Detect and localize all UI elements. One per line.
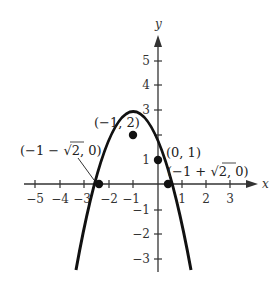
leader-line: [78, 158, 94, 180]
x-tick-label: 2: [202, 192, 210, 206]
x-tick-label: −4: [51, 192, 69, 206]
parabola-chart: −5 −4 −3 −2 −1 1 2 3 5 4 3 1 −1 −2 −3 x …: [0, 0, 278, 288]
x-tick-label: 3: [226, 192, 234, 206]
y-tick-label: −1: [132, 203, 150, 217]
y-tick-label: 4: [142, 78, 150, 92]
y-tick-label: 5: [142, 54, 150, 68]
svg-text:(−1 − √2, 0): (−1 − √2, 0): [20, 143, 102, 158]
vertex-point: [129, 131, 137, 139]
root-left-point: [95, 180, 103, 188]
y-tick-label: −3: [132, 252, 150, 266]
y-tick-label: 1: [142, 153, 150, 167]
vertex-label: (−1, 2): [94, 115, 140, 130]
x-axis-label: x: [262, 177, 269, 191]
y-intercept-point: [154, 156, 162, 164]
root-right-point: [164, 180, 172, 188]
x-tick-label: −2: [100, 192, 118, 206]
x-tick-label: 1: [178, 192, 186, 206]
y-axis-arrow-icon: [154, 35, 162, 47]
y-axis-label: y: [154, 17, 162, 31]
y-tick-label: −2: [132, 227, 150, 241]
root-right-label: (−1 + √2, 0): [167, 163, 249, 179]
y-intercept-label: (0, 1): [166, 145, 201, 160]
svg-text:(−1 + √2, 0): (−1 + √2, 0): [167, 164, 249, 179]
x-tick-label: −5: [26, 192, 44, 206]
root-left-label: (−1 − √2, 0): [20, 142, 102, 158]
x-axis-arrow-icon: [246, 180, 258, 188]
